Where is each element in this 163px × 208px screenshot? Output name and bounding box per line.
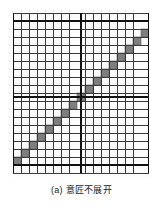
filled-cell bbox=[69, 101, 77, 109]
filled-cell bbox=[61, 109, 69, 117]
filled-cell bbox=[13, 157, 21, 165]
filled-cell bbox=[93, 77, 101, 85]
filled-cell bbox=[21, 149, 29, 157]
point-paper-grid bbox=[13, 13, 149, 177]
filled-cell bbox=[53, 117, 61, 125]
filled-cell bbox=[125, 45, 133, 53]
filled-cell bbox=[117, 53, 125, 61]
filled-cell bbox=[45, 125, 53, 133]
filled-cell bbox=[141, 29, 149, 37]
filled-cell bbox=[133, 37, 141, 45]
filled-cell bbox=[85, 85, 93, 93]
figure-caption: (a) 意匠不展开 bbox=[0, 184, 163, 196]
grid-canvas bbox=[13, 13, 149, 177]
filled-cell bbox=[29, 141, 37, 149]
filled-cell bbox=[101, 69, 109, 77]
figure-container: (a) 意匠不展开 bbox=[0, 0, 163, 208]
filled-cell bbox=[37, 133, 45, 141]
filled-cell bbox=[109, 61, 117, 69]
